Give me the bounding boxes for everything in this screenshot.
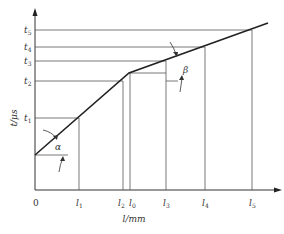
x-tick-l5: l5: [249, 198, 256, 209]
x-tick-l0: l0: [129, 198, 136, 209]
x-axis-label: l/mm: [123, 214, 146, 224]
time-length-diagram: α β t5 t4 t3 t2 t1 0 l1 l2 l0 l3 l4 l5 l…: [0, 0, 284, 234]
x-tick-l4: l4: [202, 198, 209, 209]
beta-arrowhead-bottom-icon: [179, 75, 184, 80]
horizontal-guides: [35, 30, 252, 155]
origin-label: 0: [33, 198, 39, 208]
vertical-guides: [79, 30, 252, 190]
x-tick-labels: 0 l1 l2 l0 l3 l4 l5: [33, 198, 256, 209]
y-tick-t4: t4: [24, 42, 32, 53]
y-tick-t2: t2: [24, 76, 32, 87]
y-axis-label: t/μs: [9, 109, 19, 126]
x-tick-l3: l3: [163, 198, 170, 209]
x-tick-l1: l1: [76, 198, 83, 209]
y-tick-t3: t3: [24, 56, 32, 67]
alpha-label: α: [55, 142, 61, 152]
beta-arrow-bottom-icon: [180, 78, 182, 92]
y-tick-t5: t5: [24, 25, 32, 36]
alpha-arrowhead-bottom-icon: [60, 156, 65, 161]
y-axis-arrow-icon: [33, 8, 38, 16]
y-tick-labels: t5 t4 t3 t2 t1: [24, 25, 32, 124]
axes: [35, 14, 276, 190]
y-tick-t1: t1: [24, 113, 31, 124]
x-axis-arrow-icon: [274, 188, 282, 193]
time-length-curve: [35, 23, 268, 155]
beta-label: β: [182, 65, 188, 75]
x-tick-l2: l2: [118, 198, 125, 209]
